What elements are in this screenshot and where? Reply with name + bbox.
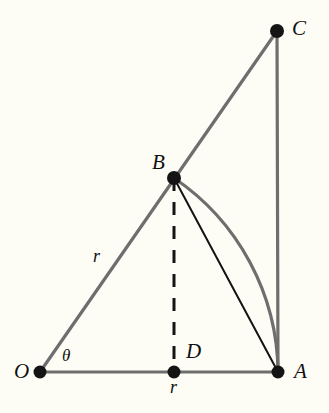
measurement-label-angle-theta: θ (62, 347, 70, 364)
diagram-canvas (0, 0, 329, 413)
point-dot-O (34, 366, 47, 379)
segment-side-CA (277, 31, 278, 372)
point-label-O: O (14, 361, 29, 382)
geometry-diagram: O A B C D r r θ (0, 0, 329, 413)
measurement-label-radius-OB: r (93, 247, 100, 265)
point-label-C: C (292, 18, 306, 39)
point-dot-B (167, 171, 181, 185)
segment-ray-OC (40, 31, 277, 372)
measurement-label-radius-OD: r (170, 378, 177, 396)
point-label-B: B (152, 152, 165, 173)
point-label-A: A (294, 361, 307, 382)
point-dot-C (270, 24, 284, 38)
point-dot-A (272, 366, 285, 379)
point-label-D: D (186, 341, 201, 362)
